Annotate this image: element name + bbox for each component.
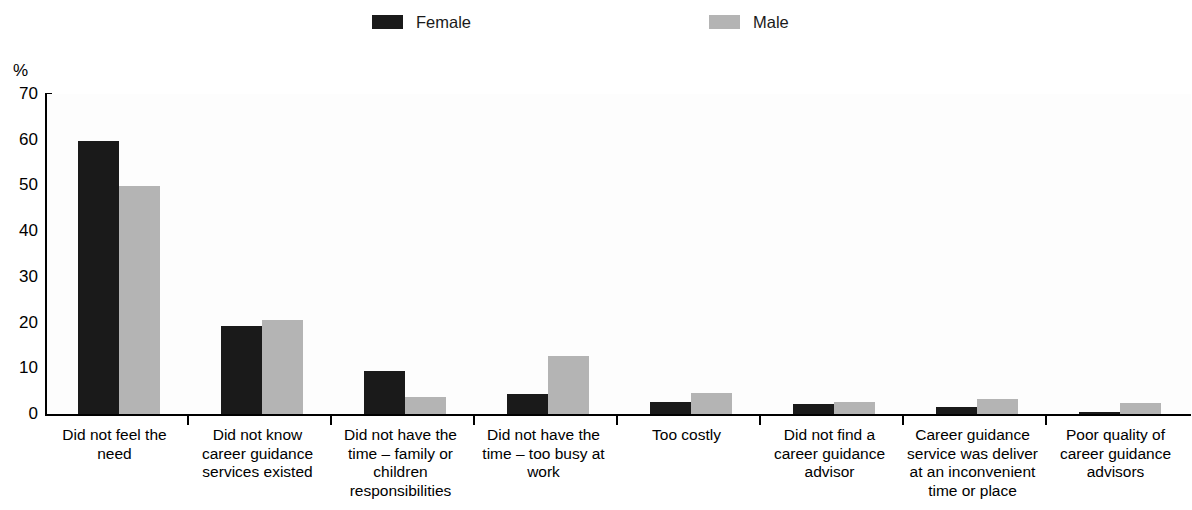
y-axis-tick-label: 60 — [4, 131, 38, 148]
bar-male-4 — [548, 356, 589, 414]
bar-male-2 — [262, 320, 303, 414]
x-axis-group-separator — [1045, 416, 1047, 425]
bar-female-5 — [650, 402, 691, 414]
legend-label-female: Female — [416, 14, 471, 31]
x-axis-group-separator — [187, 416, 189, 425]
bar-male-3 — [405, 397, 446, 414]
y-axis-labels: 010203040506070 — [0, 44, 38, 510]
bar-female-8 — [1079, 412, 1120, 414]
x-axis-group-separator — [473, 416, 475, 425]
x-axis-group-separator — [330, 416, 332, 425]
x-axis-category-label: Poor quality of career guidance advisors — [1048, 426, 1183, 482]
bar-chart: % 010203040506070 Did not feel the needD… — [0, 44, 1192, 510]
y-axis-tick-label: 70 — [4, 85, 38, 102]
y-axis-tick-label: 30 — [4, 268, 38, 285]
x-axis-group-separator — [902, 416, 904, 425]
x-axis-category-label: Did not have the time – too busy at work — [476, 426, 611, 482]
bar-male-5 — [691, 393, 732, 414]
legend-label-male: Male — [753, 14, 789, 31]
bar-female-1 — [78, 141, 119, 414]
bar-female-2 — [221, 326, 262, 414]
x-axis-category-label: Did not have the time – family or childr… — [333, 426, 468, 500]
bar-female-6 — [793, 404, 834, 414]
x-axis-category-label: Did not feel the need — [47, 426, 182, 463]
y-axis-tick-label: 0 — [4, 405, 38, 422]
x-axis-category-label: Too costly — [619, 426, 754, 445]
bar-male-1 — [119, 186, 160, 414]
bar-male-6 — [834, 402, 875, 414]
x-axis-category-label: Career guidance service was deliver at a… — [905, 426, 1040, 500]
bar-female-4 — [507, 394, 548, 414]
x-axis-group-separator — [759, 416, 761, 425]
bar-female-7 — [936, 407, 977, 414]
x-axis-category-label: Did not find a career guidance advisor — [762, 426, 897, 482]
bar-female-3 — [364, 371, 405, 414]
y-axis-tick-label: 10 — [4, 359, 38, 376]
chart-legend: Female Male — [0, 0, 1192, 44]
bar-male-8 — [1120, 403, 1161, 414]
legend-swatch-female — [372, 15, 403, 29]
legend-entry-male: Male — [709, 11, 789, 33]
legend-swatch-male — [709, 15, 740, 29]
y-axis-tick-label: 50 — [4, 176, 38, 193]
bar-male-7 — [977, 399, 1018, 414]
plot-area — [45, 94, 1191, 416]
y-axis-tick-label: 40 — [4, 222, 38, 239]
x-axis-group-separator — [616, 416, 618, 425]
y-axis-tick-label: 20 — [4, 314, 38, 331]
x-axis-category-label: Did not know career guidance services ex… — [190, 426, 325, 482]
legend-entry-female: Female — [372, 11, 471, 33]
